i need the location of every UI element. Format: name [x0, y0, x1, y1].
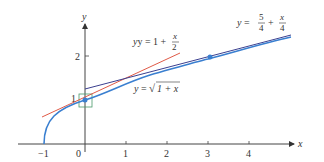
- svg-text:=: =: [244, 17, 250, 28]
- y-tick-label-2: 2: [75, 51, 80, 62]
- x-tick-label-3: 3: [205, 148, 210, 159]
- point-3-2: [208, 55, 213, 60]
- svg-text:4: 4: [280, 23, 285, 33]
- svg-text:1 + x: 1 + x: [157, 83, 179, 94]
- svg-text:+: +: [268, 17, 274, 28]
- svg-text:y: y: [236, 17, 242, 28]
- x-tick-label-1: 1: [123, 148, 128, 159]
- label-linear-equation: y = 5 4 + x 4: [236, 12, 286, 33]
- svg-text:4: 4: [259, 23, 264, 33]
- x-tick-label-neg1: −1: [38, 148, 49, 159]
- x-tick-label-2: 2: [164, 148, 169, 159]
- chart-canvas: −1 0 1 2 3 4 2 1 x y yy = 1 + x 2 y = 5 …: [0, 0, 324, 162]
- svg-text:=: =: [141, 83, 147, 94]
- x-tick-label-0: 0: [76, 148, 81, 159]
- svg-text:√: √: [149, 82, 156, 94]
- svg-text:x: x: [279, 12, 284, 22]
- x-axis-label: x: [297, 138, 303, 149]
- svg-text:y: y: [133, 83, 139, 94]
- label-curve-equation: y = √ 1 + x: [133, 82, 180, 94]
- y-axis-label: y: [81, 11, 87, 22]
- svg-text:5: 5: [259, 12, 264, 22]
- svg-text:2: 2: [172, 42, 177, 52]
- linear-line: [85, 35, 291, 89]
- svg-text:x: x: [172, 31, 177, 41]
- label-tangent-equation: yy = 1 + x 2: [132, 31, 179, 52]
- x-tick-label-4: 4: [246, 148, 251, 159]
- point-0-1: [83, 98, 88, 103]
- svg-text:yy = 1 +: yy = 1 +: [132, 36, 167, 47]
